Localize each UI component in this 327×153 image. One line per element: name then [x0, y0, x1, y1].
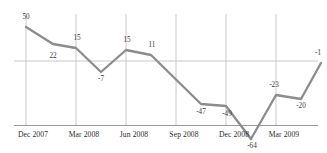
point-label-11: -1	[315, 49, 321, 57]
vertical-gridlines	[26, 14, 276, 125]
x-axis-tick-mar-2009: Mar 2009	[269, 130, 300, 139]
point-label-0: 50	[22, 13, 29, 21]
point-label-4: 15	[123, 36, 130, 44]
x-axis-tick-jun-2008: Jun 2008	[120, 130, 148, 139]
point-label-6: -47	[196, 108, 206, 116]
point-label-5: 11	[149, 41, 156, 49]
point-label-3: -7	[98, 75, 104, 83]
x-axis-tick-dec-2008: Dec 2008	[219, 130, 249, 139]
line-chart: 50 22 15 -7 15 11 -47 -49 -64 -23 -20 -1…	[0, 0, 327, 153]
x-axis-tick-sep-2008: Sep 2008	[169, 130, 198, 139]
x-axis-tick-mar-2008: Mar 2008	[69, 130, 100, 139]
point-label-9: -23	[269, 81, 279, 89]
point-label-7: -49	[222, 110, 232, 118]
point-label-10: -20	[296, 102, 306, 110]
point-label-2: 15	[73, 34, 80, 42]
x-axis-tick-dec-2007: Dec 2007	[18, 130, 48, 139]
point-label-1: 22	[49, 52, 56, 60]
point-label-8: -64	[247, 142, 257, 150]
